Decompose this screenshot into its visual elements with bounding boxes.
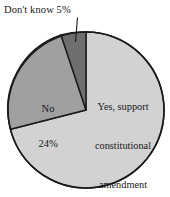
slice-label-dont-know: Don't know 5% bbox=[4, 4, 71, 16]
slice-label-no-value: 24% bbox=[28, 138, 68, 150]
slice-label-yes-line-2: constitutional bbox=[86, 140, 160, 153]
slice-label-yes-line-3: amendment bbox=[86, 179, 160, 192]
pie-chart: Don't know 5% No 24% Yes, support consti… bbox=[0, 0, 170, 197]
slice-label-yes: Yes, support constitutional amendment to… bbox=[86, 75, 160, 197]
slice-label-no-title: No bbox=[28, 103, 68, 115]
slice-label-yes-line-1: Yes, support bbox=[86, 101, 160, 114]
slice-label-no: No 24% bbox=[28, 79, 68, 173]
